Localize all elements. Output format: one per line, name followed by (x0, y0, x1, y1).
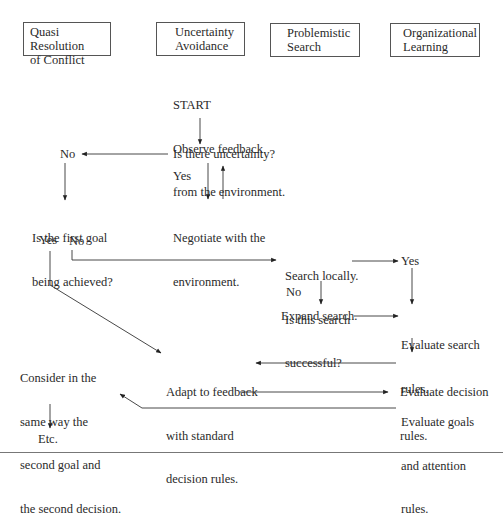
yes-label-search: Yes (401, 254, 419, 269)
negotiate-text: environment. (173, 275, 265, 290)
no-label-first-goal: No (69, 234, 84, 249)
adapt-text: Adapt to feedback (166, 385, 258, 400)
etc-node: Etc. (38, 432, 58, 447)
first-goal-question: Is the first goal being achieved? (32, 202, 113, 304)
consider-text: same way the (20, 415, 121, 430)
consider-second-goal-node: Consider in the same way the second goal… (20, 342, 121, 517)
start-text: from the environment. (173, 185, 285, 200)
eval-search-text: Evaluate search (401, 338, 480, 353)
eval-goals-text: rules. (401, 502, 474, 517)
adapt-feedback-node: Adapt to feedback with standard decision… (166, 356, 258, 501)
search-text: successful? (285, 356, 358, 371)
consider-text: the second decision. (20, 502, 121, 517)
no-label-search: No (286, 285, 301, 300)
first-goal-text: being achieved? (32, 275, 113, 290)
start-label: START (173, 98, 285, 113)
consider-text: Consider in the (20, 371, 121, 386)
expand-search-node: Expand search. (281, 309, 357, 324)
negotiate-node: Negotiate with the environment. (173, 202, 265, 304)
uncertainty-question: Is there uncertainty? (173, 147, 275, 162)
adapt-text: with standard (166, 429, 258, 444)
negotiate-text: Negotiate with the (173, 231, 265, 246)
adapt-text: decision rules. (166, 472, 258, 487)
start-node: START Observe feedback from the environm… (173, 69, 285, 214)
search-text: Search locally. (285, 269, 358, 284)
eval-goals-text: Evaluate goals (401, 415, 474, 430)
no-label-uncertainty: No (60, 147, 75, 162)
bottom-rule (0, 452, 503, 453)
eval-goals-text: and attention (401, 459, 474, 474)
consider-text: second goal and (20, 458, 121, 473)
yes-label-first-goal: Yes (39, 233, 57, 248)
yes-label-uncertainty: Yes (173, 169, 191, 184)
